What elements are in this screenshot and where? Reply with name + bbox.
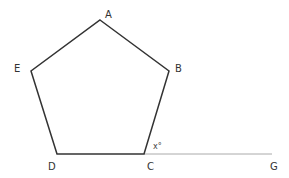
vertex-label-e: E (14, 63, 20, 74)
vertex-label-d: D (48, 161, 56, 172)
point-label-g: G (270, 161, 278, 172)
vertex-label-c: C (147, 161, 154, 172)
pentagon-diagram: A B C D E G x° (0, 0, 289, 178)
pentagon-abcde (31, 20, 169, 154)
vertex-label-b: B (175, 63, 182, 74)
angle-label-x: x° (153, 142, 162, 151)
vertex-label-a: A (105, 9, 112, 20)
